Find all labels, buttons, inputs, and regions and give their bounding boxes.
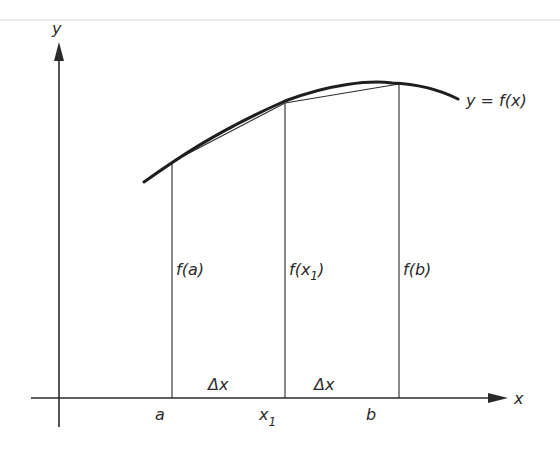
value-label-b: f(b) bbox=[403, 260, 431, 279]
value-label-x1: f(x1) bbox=[289, 260, 324, 283]
x-axis-arrow-icon bbox=[488, 393, 508, 403]
tick-label-b: b bbox=[366, 405, 376, 424]
y-axis-label: y bbox=[51, 19, 62, 38]
trapezoid-rule-diagram: y x y = f(x) f(a) f(x1) f(b) Δx Δx a x1 … bbox=[0, 0, 560, 454]
tick-label-a: a bbox=[155, 405, 165, 424]
interval-label-1: Δx bbox=[206, 375, 229, 394]
curve-label: y = f(x) bbox=[465, 91, 527, 110]
tick-label-x1: x1 bbox=[258, 405, 276, 429]
x-axis-label: x bbox=[513, 389, 524, 408]
y-axis-arrow-icon bbox=[54, 42, 64, 61]
interval-label-2: Δx bbox=[312, 375, 335, 394]
value-label-a: f(a) bbox=[176, 260, 204, 279]
function-curve bbox=[144, 82, 458, 182]
